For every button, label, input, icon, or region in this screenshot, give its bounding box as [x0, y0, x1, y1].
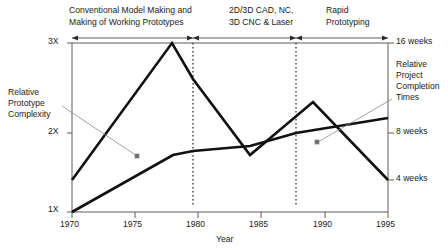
x-axis-ticks [72, 212, 388, 218]
leader-line-left [62, 106, 137, 156]
arrowhead-right-2 [290, 35, 296, 40]
annotation-project-times-line3: Completion [396, 82, 439, 91]
y2-axis-ticks [388, 43, 394, 180]
era-band-2-label-line1: 2D/3D CAD, NC, [229, 6, 293, 15]
y2-tick-label-4weeks: 4 weeks [396, 174, 428, 183]
y-axis-ticks [67, 43, 72, 212]
era-band-2-label-line2: 3D CNC & Laser [229, 18, 293, 27]
arrowhead-left-3 [296, 35, 302, 40]
y-tick-label-2x: 2X [48, 127, 59, 136]
x-tick-label-1975: 1975 [123, 220, 142, 229]
era-band-3-label-line1: Rapid [326, 6, 348, 15]
series-project-completion-times [72, 43, 388, 180]
leader-arrow-left [135, 154, 139, 158]
era-band-1-label-line1: Conventional Model Making and [69, 6, 192, 15]
arrowhead-left-2 [193, 35, 199, 40]
x-axis-title: Year [216, 235, 233, 244]
era-band-3-label-line2: Prototyping [326, 18, 369, 27]
era-dividers [193, 43, 296, 205]
x-tick-label-1970: 1970 [60, 220, 79, 229]
y-tick-label-3x: 3X [48, 37, 59, 46]
x-tick-label-1995: 1995 [376, 220, 395, 229]
annotation-project-times-line2: Project [396, 71, 423, 80]
era-band-1-label-line2: Making of Working Prototypes [69, 18, 183, 27]
x-tick-label-1990: 1990 [313, 220, 332, 229]
annotation-project-times-line1: Relative [396, 60, 427, 69]
annotation-project-times-line4: Times [396, 93, 419, 102]
arrowhead-right-1 [187, 35, 193, 40]
x-tick-label-1985: 1985 [249, 220, 268, 229]
y2-tick-label-16weeks: 16 weeks [396, 37, 432, 46]
y-tick-label-1x: 1X [48, 205, 59, 214]
arrowhead-left-1 [72, 35, 78, 40]
x-tick-label-1980: 1980 [186, 220, 205, 229]
chart-canvas [0, 0, 448, 250]
arrowhead-right-3 [382, 35, 388, 40]
annotation-prototype-complexity-line3: Complexity [8, 110, 51, 119]
annotation-prototype-complexity-line1: Relative [8, 88, 39, 97]
y2-tick-label-8weeks: 8 weeks [396, 127, 428, 136]
leader-arrow-right [315, 140, 319, 144]
chart-root: Conventional Model Making and Making of … [0, 0, 448, 250]
annotation-prototype-complexity-line2: Prototype [8, 99, 45, 108]
